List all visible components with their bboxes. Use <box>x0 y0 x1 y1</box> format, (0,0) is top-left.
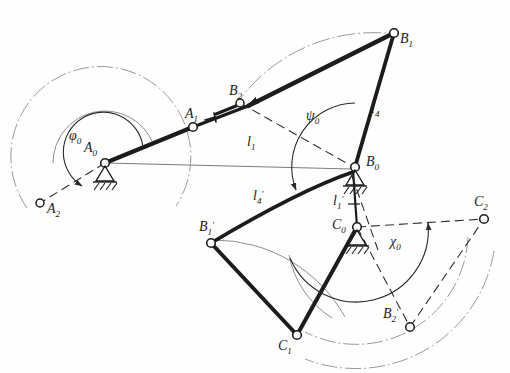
joint-B1-prime <box>207 239 216 248</box>
arc-C-mid <box>305 237 468 344</box>
label-C1: C1 <box>278 338 292 356</box>
joint-labels: A0 A1 A2 B0 B1 B2 C0 C1 C2 B1' B2' <box>46 31 488 356</box>
label-l4: l4 <box>371 101 380 119</box>
joint-C2 <box>480 215 489 224</box>
label-A1: A1 <box>184 106 198 124</box>
label-l4-prime: l4' <box>253 188 264 206</box>
joint-C1 <box>293 331 302 340</box>
joint-B1 <box>390 29 399 38</box>
arc-B0-lower <box>214 240 345 317</box>
mechanism-drawing: A0 A1 A2 B0 B1 B2 C0 C1 C2 B1' B2' l1 l4… <box>0 0 510 373</box>
diagram-canvas: A0 A1 A2 B0 B1 B2 C0 C1 C2 B1' B2' l1 l4… <box>0 0 510 373</box>
link-frame-B0-C0 <box>353 170 357 227</box>
linkage-bars <box>105 33 394 335</box>
label-l1: l1 <box>247 134 255 152</box>
arc-phi0 <box>63 112 143 186</box>
dash-C0-C2 <box>357 219 484 227</box>
label-B1-prime: B1' <box>199 219 215 237</box>
arc-psi0 <box>292 103 355 190</box>
label-phi0: φ0 <box>69 128 82 146</box>
label-chi0: χ0 <box>388 234 401 252</box>
dash-B2-B0 <box>240 103 350 165</box>
link-coupler-A1-B1 <box>193 106 248 127</box>
joint-B2-prime <box>406 323 415 332</box>
arrow-coupler-to-B2 <box>249 80 300 104</box>
frame-line-l1 <box>105 163 352 169</box>
label-B0: B0 <box>366 154 380 172</box>
arc-A-inner <box>53 111 153 163</box>
label-C0: C0 <box>332 217 346 235</box>
ground-hatch-A0 <box>94 183 117 190</box>
dash-A0-A2 <box>40 163 105 203</box>
label-C2: C2 <box>474 194 488 212</box>
angle-arcs <box>63 103 428 302</box>
label-B2: B2 <box>229 83 243 101</box>
label-psi0: ψ0 <box>306 108 320 126</box>
link-crank-A0-A1 <box>105 127 193 163</box>
link-coupler-B1p-C1 <box>211 243 297 335</box>
label-A0: A0 <box>83 140 98 158</box>
link-rocker-B0-B1p <box>211 172 353 243</box>
dash-B2p-C2 <box>410 219 484 327</box>
link-coupler-B2-B1 <box>248 33 394 106</box>
ground-triangle-A0 <box>96 166 114 181</box>
label-B1: B1 <box>400 31 413 49</box>
link-rocker-B0-B1 <box>355 33 394 167</box>
label-B2-prime: B2' <box>383 306 399 324</box>
ground-hatch-C0 <box>346 247 369 254</box>
joint-A2 <box>36 199 44 207</box>
label-l1-prime: l1' <box>333 193 344 211</box>
label-A2: A2 <box>46 201 61 219</box>
